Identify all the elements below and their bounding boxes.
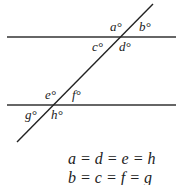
angle-label-h: h°	[51, 107, 63, 122]
angle-label-c: c°	[92, 39, 103, 54]
angle-diagram: a° b° c° d° e° f° g° h° a = d = e = h b …	[0, 0, 178, 185]
equation-2: b = c = f = g	[68, 169, 152, 185]
angle-label-d: d°	[119, 39, 131, 54]
angle-label-a: a°	[110, 19, 122, 34]
transversal-line	[17, 4, 153, 142]
angle-label-b: b°	[139, 19, 151, 34]
angle-label-g: g°	[25, 107, 37, 122]
equation-1: a = d = e = h	[68, 150, 156, 167]
angle-label-e: e°	[45, 87, 56, 102]
angle-label-f: f°	[72, 87, 81, 102]
